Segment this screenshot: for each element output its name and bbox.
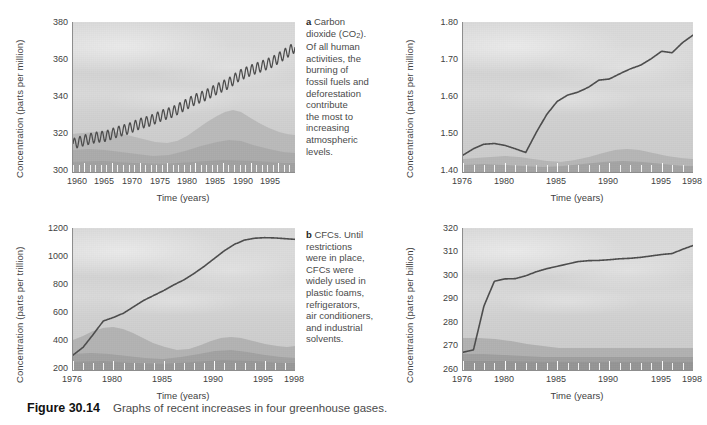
panel-methane-y-tick-140: 1.40 xyxy=(418,165,458,175)
panel-cfc-data-line xyxy=(73,228,295,370)
panel-cfc-x-tick-1980: 1980 xyxy=(95,374,129,384)
panel-n2o-x-tick-1985: 1985 xyxy=(539,374,573,384)
panel-methane-x-axis-title: Time (years) xyxy=(522,192,632,203)
caption-cfc: b CFCs. Until restrictions were in place… xyxy=(306,229,388,345)
caption-cfc-l8: air conditioners, xyxy=(306,310,373,321)
caption-cfc-l6: plastic foams, xyxy=(306,287,364,298)
panel-methane-plot-area xyxy=(462,22,693,173)
panel-cfc-plot-area xyxy=(72,228,295,371)
panel-n2o-x-tick-marks xyxy=(463,361,693,370)
panel-cfc-y-tick-1200: 1200 xyxy=(28,223,68,233)
panel-methane-x-tick-1990: 1990 xyxy=(591,176,625,186)
caption-co2-l10: increasing xyxy=(306,122,349,133)
panel-co2-y-tick-320: 320 xyxy=(34,128,68,138)
caption-cfc-lead: b xyxy=(306,229,312,240)
panel-co2-y-tick-360: 360 xyxy=(34,54,68,64)
caption-co2-l9: the most to xyxy=(306,111,353,122)
panel-methane-y-tick-170: 1.70 xyxy=(418,54,458,64)
panel-cfc-x-tick-1998: 1998 xyxy=(277,374,311,384)
panel-cfc-y-tick-800: 800 xyxy=(28,279,68,289)
panel-n2o-x-tick-1998: 1998 xyxy=(675,374,707,384)
panel-n2o-x-axis-title: Time (years) xyxy=(522,390,632,401)
caption-co2-line1: Carbon xyxy=(314,16,345,27)
caption-co2: a Carbon dioxide (CO2). Of all human act… xyxy=(306,16,384,157)
panel-co2-x-tick-1995: 1995 xyxy=(253,176,287,186)
caption-co2-l4: activities, the xyxy=(306,53,361,64)
panel-cfc-x-tick-1990: 1990 xyxy=(196,374,230,384)
caption-co2-l7: deforestation xyxy=(306,88,361,99)
panel-methane-x-tick-marks xyxy=(463,163,693,172)
panel-n2o-data-line xyxy=(463,228,693,370)
panel-n2o-x-tick-1995: 1995 xyxy=(644,374,678,384)
panel-methane-x-tick-1995: 1995 xyxy=(644,176,678,186)
caption-cfc-l4: CFCs were xyxy=(306,264,354,275)
caption-cfc-l2: restrictions xyxy=(306,241,352,252)
caption-co2-l8: contribute xyxy=(306,99,348,110)
caption-co2-l6: fossil fuels and xyxy=(306,76,369,87)
caption-co2-lead: a xyxy=(306,16,311,27)
caption-co2-line2-post: ). xyxy=(360,28,366,39)
panel-nitrous-oxide-plot-area xyxy=(462,228,693,371)
panel-n2o-x-tick-1976: 1976 xyxy=(445,374,479,384)
panel-cfc-x-tick-1976: 1976 xyxy=(55,374,89,384)
panel-cfc-x-tick-marks xyxy=(73,361,295,370)
panel-n2o-y-tick-320: 320 xyxy=(418,223,458,233)
panel-cfc-y-axis-title: Concentration (parts per trillion) xyxy=(14,247,25,383)
panel-n2o-y-tick-260: 260 xyxy=(418,364,458,374)
caption-cfc-l9: and industrial xyxy=(306,322,363,333)
panel-cfc-y-tick-400: 400 xyxy=(28,335,68,345)
caption-cfc-l7: refrigerators, xyxy=(306,299,360,310)
panel-cfc-y-tick-1000: 1000 xyxy=(28,251,68,261)
panel-n2o-y-tick-270: 270 xyxy=(418,340,458,350)
panel-n2o-x-tick-1990: 1990 xyxy=(591,374,625,384)
caption-cfc-l3: were in place, xyxy=(306,252,365,263)
panel-methane-x-tick-1976: 1976 xyxy=(445,176,479,186)
caption-co2-l11: atmospheric xyxy=(306,134,358,145)
panel-nitrous-oxide-y-axis-title: Concentration (parts per billion) xyxy=(404,247,415,383)
caption-co2-l3: Of all human xyxy=(306,41,360,52)
panel-cfc-y-tick-200: 200 xyxy=(28,363,68,373)
panel-co2-y-tick-340: 340 xyxy=(34,91,68,101)
panel-co2-x-axis-title: Time (years) xyxy=(128,192,238,203)
figure-number: Figure 30.14 xyxy=(27,401,100,415)
panel-cfc-x-axis-title: Time (years) xyxy=(128,390,238,401)
caption-cfc-line1: CFCs. Until xyxy=(314,229,363,240)
panel-co2-y-tick-380: 380 xyxy=(34,17,68,27)
panel-methane-data-line xyxy=(463,22,693,172)
panel-methane-x-tick-1998: 1998 xyxy=(675,176,707,186)
caption-co2-line2-pre: dioxide (CO xyxy=(306,28,356,39)
panel-n2o-y-tick-310: 310 xyxy=(418,246,458,256)
figure-caption: Figure 30.14Graphs of recent increases i… xyxy=(27,401,387,415)
panel-co2-x-tick-marks xyxy=(73,163,295,172)
panel-n2o-y-tick-300: 300 xyxy=(418,270,458,280)
panel-methane-x-tick-1980: 1980 xyxy=(487,176,521,186)
caption-co2-l5: burning of xyxy=(306,64,348,75)
panel-methane-y-tick-160: 1.60 xyxy=(418,91,458,101)
panel-methane-y-tick-150: 1.50 xyxy=(418,128,458,138)
panel-methane-y-tick-180: 1.80 xyxy=(418,17,458,27)
panel-co2-data-line xyxy=(73,22,295,172)
panel-cfc-x-tick-1985: 1985 xyxy=(145,374,179,384)
caption-co2-l12: levels. xyxy=(306,146,333,157)
figure-caption-text: Graphs of recent increases in four green… xyxy=(113,402,387,414)
panel-n2o-y-tick-290: 290 xyxy=(418,293,458,303)
panel-co2-y-axis-title: Concentration (parts per million) xyxy=(14,40,25,178)
panel-co2-y-tick-300: 300 xyxy=(34,165,68,175)
panel-methane-x-tick-1985: 1985 xyxy=(539,176,573,186)
panel-methane-y-axis-title: Concentration (parts per million) xyxy=(404,40,415,178)
caption-cfc-l5: widely used in xyxy=(306,275,366,286)
panel-cfc-x-tick-1995: 1995 xyxy=(246,374,280,384)
caption-cfc-l10: solvents. xyxy=(306,333,344,344)
panel-n2o-y-tick-280: 280 xyxy=(418,317,458,327)
panel-n2o-x-tick-1980: 1980 xyxy=(487,374,521,384)
panel-cfc-y-tick-600: 600 xyxy=(28,307,68,317)
panel-co2-plot-area xyxy=(72,22,295,173)
